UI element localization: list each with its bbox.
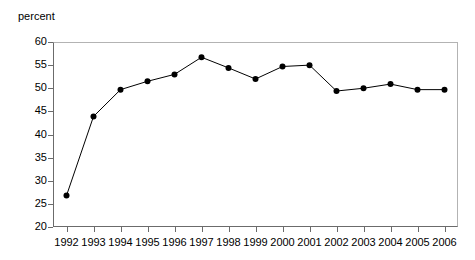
x-tick-label: 1992: [54, 236, 78, 248]
series-line: [53, 42, 458, 227]
y-tick-label: 55: [25, 59, 47, 70]
x-tick-label: 2000: [270, 236, 294, 248]
y-axis-labels: 202530354045505560: [22, 0, 47, 260]
y-tick-mark: [48, 65, 53, 66]
x-tick-mark: [364, 227, 365, 232]
y-tick-label: 60: [25, 36, 47, 47]
x-tick-label: 2005: [405, 236, 429, 248]
x-tick-mark: [256, 227, 257, 232]
y-tick-mark: [48, 204, 53, 205]
y-tick-mark: [48, 88, 53, 89]
x-tick-mark: [418, 227, 419, 232]
data-point-marker: [253, 76, 259, 82]
x-tick-label: 1998: [216, 236, 240, 248]
y-tick-label: 20: [25, 221, 47, 232]
data-point-marker: [307, 62, 313, 68]
line-chart: percent 202530354045505560 1992199319941…: [0, 0, 475, 260]
x-tick-mark: [202, 227, 203, 232]
x-tick-mark: [445, 227, 446, 232]
data-point-marker: [145, 78, 151, 84]
data-point-marker: [334, 88, 340, 94]
x-tick-label: 2006: [432, 236, 456, 248]
x-tick-label: 1995: [135, 236, 159, 248]
x-tick-label: 1996: [162, 236, 186, 248]
x-tick-label: 2003: [351, 236, 375, 248]
y-tick-label: 35: [25, 152, 47, 163]
data-point-marker: [172, 71, 178, 77]
data-point-marker: [442, 87, 448, 93]
x-tick-mark: [67, 227, 68, 232]
x-tick-label: 1999: [243, 236, 267, 248]
plot-area: [53, 42, 458, 227]
y-tick-mark: [48, 227, 53, 228]
x-tick-label: 2001: [297, 236, 321, 248]
y-tick-mark: [48, 181, 53, 182]
x-tick-label: 1997: [189, 236, 213, 248]
data-point-marker: [415, 87, 421, 93]
data-point-marker: [388, 81, 394, 87]
data-point-marker: [361, 85, 367, 91]
x-tick-mark: [283, 227, 284, 232]
y-tick-label: 40: [25, 129, 47, 140]
x-tick-mark: [121, 227, 122, 232]
x-tick-label: 1993: [81, 236, 105, 248]
data-point-marker: [118, 87, 124, 93]
data-point-marker: [199, 54, 205, 60]
x-tick-mark: [175, 227, 176, 232]
x-tick-mark: [391, 227, 392, 232]
data-point-marker: [280, 64, 286, 70]
x-tick-label: 2002: [324, 236, 348, 248]
x-tick-label: 1994: [108, 236, 132, 248]
x-tick-mark: [94, 227, 95, 232]
y-tick-mark: [48, 42, 53, 43]
data-point-marker: [91, 113, 97, 119]
x-tick-mark: [337, 227, 338, 232]
data-point-marker: [64, 193, 70, 199]
y-tick-label: 30: [25, 175, 47, 186]
y-tick-label: 25: [25, 198, 47, 209]
data-point-marker: [226, 65, 232, 71]
y-tick-label: 45: [25, 105, 47, 116]
x-tick-mark: [229, 227, 230, 232]
x-tick-mark: [148, 227, 149, 232]
y-tick-mark: [48, 158, 53, 159]
y-tick-mark: [48, 111, 53, 112]
x-tick-label: 2004: [378, 236, 402, 248]
y-tick-label: 50: [25, 82, 47, 93]
y-tick-mark: [48, 135, 53, 136]
x-tick-mark: [310, 227, 311, 232]
